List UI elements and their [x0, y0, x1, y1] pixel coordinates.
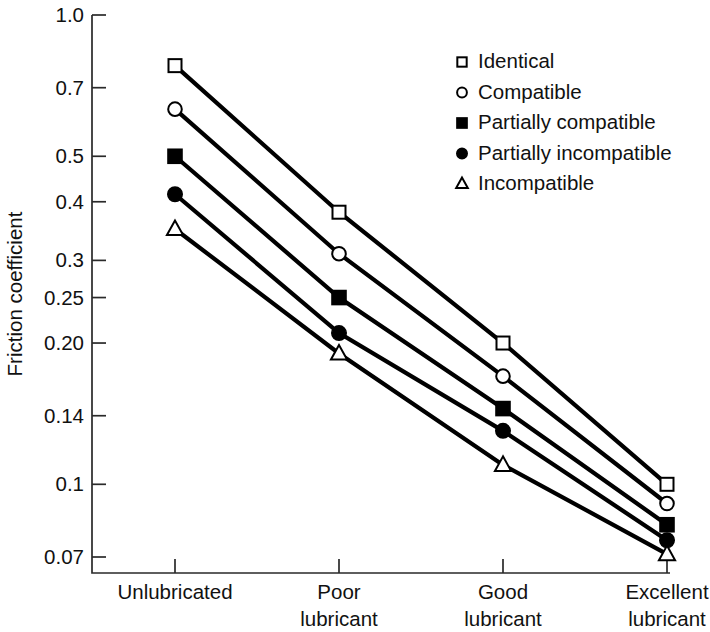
legend-label: Partially incompatible	[478, 141, 672, 164]
open-square-marker	[661, 478, 674, 491]
y-tick-label: 0.1	[56, 472, 85, 495]
x-tick-label: Unlubricated	[117, 580, 232, 603]
legend-item: Partially compatible	[457, 110, 656, 133]
y-tick-label: 0.3	[56, 248, 85, 271]
y-tick-label: 0.07	[44, 545, 84, 568]
legend-item: Incompatible	[456, 171, 594, 194]
friction-coefficient-chart: 1.00.70.50.40.30.250.200.140.10.07 Unlub…	[0, 0, 710, 632]
legend-label: Identical	[478, 49, 554, 72]
open-square-marker	[169, 59, 182, 72]
y-tick-label: 0.25	[44, 286, 84, 309]
y-tick-label: 0.5	[56, 144, 85, 167]
y-tick-label: 0.7	[56, 76, 85, 99]
x-tick-label: lubricant	[300, 607, 378, 630]
series-line	[175, 109, 667, 503]
legend-label: Incompatible	[478, 171, 594, 194]
open-square-marker	[457, 57, 466, 66]
open-circle-marker	[457, 88, 467, 98]
x-tick-label: Poor	[317, 580, 360, 603]
filled-square-marker	[332, 291, 346, 305]
open-circle-marker	[332, 247, 346, 261]
y-tick-label: 0.20	[44, 331, 84, 354]
filled-circle-marker	[457, 148, 467, 158]
x-tick-label: lubricant	[464, 607, 542, 630]
series-incompatible	[167, 220, 675, 560]
series-line	[175, 194, 667, 540]
series-partially-compatible	[168, 149, 674, 531]
y-axis-title: Friction coefficient	[3, 211, 26, 376]
filled-circle-marker	[168, 187, 182, 201]
filled-square-marker	[496, 402, 510, 416]
axis-spines	[92, 15, 670, 573]
open-circle-marker	[660, 497, 674, 511]
chart-legend: IdenticalCompatiblePartially compatibleP…	[456, 49, 672, 194]
axis-titles: Friction coefficient	[3, 211, 26, 376]
open-circle-marker	[168, 102, 182, 116]
legend-label: Partially compatible	[478, 110, 656, 133]
legend-item: Identical	[457, 49, 554, 72]
y-axis-ticks: 1.00.70.50.40.30.250.200.140.10.07	[44, 3, 106, 568]
open-square-marker	[333, 206, 346, 219]
series-partially-incompatible	[168, 187, 674, 547]
open-circle-marker	[496, 369, 510, 383]
legend-label: Compatible	[478, 80, 582, 103]
data-series	[167, 59, 675, 560]
x-tick-label: Good	[478, 580, 528, 603]
series-line	[175, 156, 667, 524]
chart-canvas: 1.00.70.50.40.30.250.200.140.10.07 Unlub…	[0, 0, 710, 632]
filled-circle-marker	[332, 326, 346, 340]
x-tick-label: lubricant	[628, 607, 706, 630]
filled-square-marker	[660, 518, 674, 532]
y-tick-label: 1.0	[56, 3, 85, 26]
x-axis-ticks: UnlubricatedPoorlubricantGoodlubricantEx…	[117, 559, 708, 630]
filled-square-marker	[168, 149, 182, 163]
y-tick-label: 0.14	[44, 404, 84, 427]
axes	[92, 15, 670, 573]
x-tick-label: Excellent	[625, 580, 708, 603]
filled-circle-marker	[496, 424, 510, 438]
open-triangle-marker	[456, 178, 468, 189]
y-tick-label: 0.4	[56, 190, 85, 213]
open-triangle-marker	[167, 220, 183, 235]
open-square-marker	[497, 337, 510, 350]
legend-item: Partially incompatible	[457, 141, 672, 164]
filled-square-marker	[457, 118, 467, 128]
legend-item: Compatible	[457, 80, 582, 103]
